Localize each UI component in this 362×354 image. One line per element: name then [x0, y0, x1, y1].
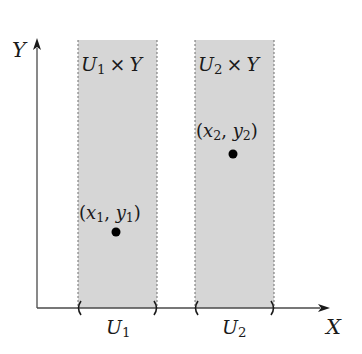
x-sub: 1: [96, 210, 104, 225]
interval-sub: 2: [238, 325, 246, 340]
strip-label-sub: 1: [97, 62, 105, 77]
strip-u1-times-y: [78, 40, 157, 308]
open-paren: (: [196, 120, 203, 141]
strip-label-base: U: [198, 53, 214, 75]
point-label-x1-y1: (x1, y1): [79, 204, 141, 225]
strip-u2-times-y: [195, 40, 274, 308]
diagram-canvas: [0, 0, 362, 354]
strip-label-base: U: [81, 53, 97, 75]
point-x2-y2: [229, 150, 238, 159]
comma: ,: [221, 120, 227, 141]
interval-label-u2: U2: [222, 318, 246, 340]
times-symbol: ×: [109, 53, 125, 75]
close-paren: ): [251, 120, 258, 141]
interval-base: U: [106, 316, 122, 338]
open-paren: (: [79, 202, 86, 223]
comma: ,: [104, 202, 110, 223]
strip-label-factor: Y: [246, 53, 259, 75]
strip-label-u2-times-y: U2×Y: [198, 55, 259, 77]
y-axis-label: Y: [12, 40, 26, 61]
strip-label-sub: 2: [214, 62, 222, 77]
y-sub: 1: [126, 210, 134, 225]
x-sub: 2: [213, 128, 221, 143]
strip-label-u1-times-y: U1×Y: [81, 55, 142, 77]
interval-label-u1: U1: [106, 318, 130, 340]
x-coord: x: [203, 120, 213, 141]
interval-sub: 1: [122, 325, 130, 340]
times-symbol: ×: [226, 53, 242, 75]
point-x1-y1: [112, 228, 121, 237]
x-axis-label: X: [326, 317, 341, 338]
point-label-x2-y2: (x2, y2): [196, 122, 258, 143]
y-coord: y: [116, 202, 126, 223]
interval-base: U: [222, 316, 238, 338]
close-paren: ): [134, 202, 141, 223]
x-coord: x: [86, 202, 96, 223]
y-sub: 2: [243, 128, 251, 143]
y-coord: y: [233, 120, 243, 141]
strip-label-factor: Y: [129, 53, 142, 75]
